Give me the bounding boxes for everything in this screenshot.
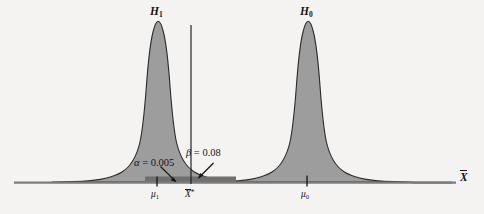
beta-value: 0.08: [202, 147, 220, 158]
figure-canvas: [0, 0, 484, 214]
x-axis-label: X: [460, 172, 468, 184]
tick-label-mu0: μ0: [301, 190, 309, 200]
tick-label-critical-value-xbar: X: [185, 190, 191, 200]
curve-label-h1-subscript: 1: [159, 10, 163, 19]
overbar: [460, 170, 467, 171]
tick-label-critical-value-letter: X: [185, 189, 191, 199]
tick-label-mu0-subscript: 0: [306, 193, 309, 200]
beta-equals: =: [191, 147, 202, 158]
curve-label-h1-letter: H: [150, 5, 159, 17]
beta-annotation-label: β = 0.08: [186, 148, 221, 159]
curve-label-h1: H1: [150, 6, 163, 18]
hypothesis-test-figure: H1 H0 α = 0.005 β = 0.08 μ1 X* μ0 X: [0, 0, 484, 214]
x-axis-label-xbar: X: [460, 172, 468, 184]
tick-label-critical-value-star: *: [191, 188, 195, 197]
alpha-annotation-label: α = 0.005: [134, 158, 174, 169]
curve-label-h0: H0: [300, 6, 313, 18]
curve-label-h0-letter: H: [300, 5, 309, 17]
overbar: [185, 189, 190, 190]
tick-label-mu1: μ1: [151, 190, 159, 200]
alpha-equals: =: [140, 157, 151, 168]
x-axis-label-letter: X: [460, 171, 468, 183]
curve-label-h0-subscript: 0: [309, 10, 313, 19]
tick-label-mu1-subscript: 1: [156, 193, 159, 200]
alpha-value: 0.005: [151, 157, 175, 168]
tick-label-critical-value: X*: [185, 189, 195, 200]
